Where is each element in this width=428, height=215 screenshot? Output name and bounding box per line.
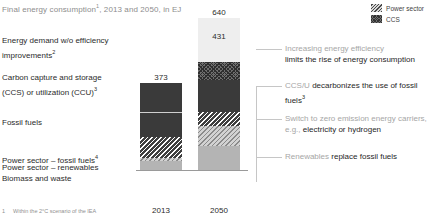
connector-line-ccs (256, 86, 282, 87)
x-axis-line (136, 170, 248, 171)
annotation-renewables-strong: replace fossil fuels (331, 152, 397, 161)
bar-2050-total-label: 640 (198, 8, 240, 17)
segment-2050-efficiency-ghost: 431 (198, 18, 240, 62)
category-label-energy-demand-line1: Energy demand w/o efficiency (2, 36, 109, 45)
category-label-ccs-line1: Carbon capture and storage (2, 73, 102, 82)
annotation-zero-emission: Switch to zero emission energy carriers,… (285, 114, 428, 135)
connector-line-efficiency (256, 49, 282, 50)
category-label-energy-demand-line2: improvements (2, 50, 52, 59)
energy-consumption-chart: Final energy consumption1, 2013 and 2050… (0, 0, 428, 215)
connector-line-zero-emission (256, 119, 282, 120)
category-label-ccs-line2: (CCS) or utilization (CCU) (2, 87, 94, 96)
plot-area: 373 640 431 (136, 12, 248, 184)
category-label-fossil-fuels: Fossil fuels (2, 118, 42, 129)
segment-2050-power-fossil (198, 112, 240, 126)
annotation-efficiency: Increasing energy efficiency limits the … (285, 44, 428, 65)
connector-vertical-rule (256, 86, 257, 182)
x-tick-2013: 2013 (140, 206, 182, 215)
legend-swatch-power-sector-icon (371, 4, 382, 12)
bar-2050-actual-label: 431 (198, 32, 240, 41)
category-label-biomass: Biomass and waste (2, 174, 71, 185)
annotation-efficiency-strong: limits the rise of energy consumption (285, 55, 415, 64)
x-tick-2050: 2050 (198, 206, 240, 215)
chart-title-main: Final energy consumption (2, 5, 96, 14)
connector-line-renewables (256, 157, 282, 158)
category-label-power-fossil-sup: 4 (95, 154, 98, 160)
legend-swatch-ccs-icon (371, 15, 382, 23)
bar-2050: 640 431 (198, 18, 240, 170)
legend-label-ccs: CCS (386, 16, 400, 23)
category-label-power-renewables-text: Power sector – renewables (2, 163, 99, 172)
bar-2013-total-label: 373 (140, 73, 182, 82)
footnote-text: Within the 2°C scenario of the IEA (13, 208, 96, 214)
annotation-renewables: Renewables replace fossil fuels (285, 152, 428, 163)
category-label-energy-demand-sup: 2 (52, 49, 55, 55)
segment-2013-power-fossil (140, 137, 182, 158)
segment-2050-biomass (198, 146, 240, 170)
segment-2050-fossil (198, 80, 240, 112)
category-label-power-renewables: Power sector – renewables (2, 163, 99, 174)
footnote-number: 1 (2, 208, 7, 214)
segment-2050-ccs (198, 62, 240, 80)
annotation-efficiency-muted: Increasing energy efficiency (285, 44, 384, 53)
annotation-ccs-muted: CCS/U (285, 81, 310, 90)
segment-2013-fossil-lower (140, 113, 182, 137)
category-label-fossil-fuels-text: Fossil fuels (2, 118, 42, 127)
segment-2013-fossil-upper (140, 83, 182, 113)
category-label-ccs: Carbon capture and storage (CCS) or util… (2, 73, 102, 98)
bar-2013: 373 (140, 83, 182, 170)
segment-2050-power-renewables (198, 126, 240, 146)
annotation-zero-emission-strong: electricity or hydrogen (303, 125, 381, 134)
legend-item-power-sector: Power sector (371, 4, 424, 12)
category-label-ccs-sup: 3 (94, 86, 97, 92)
annotation-renewables-muted: Renewables (285, 152, 329, 161)
category-label-energy-demand: Energy demand w/o efficiency improvement… (2, 36, 109, 61)
category-label-biomass-text: Biomass and waste (2, 174, 71, 183)
legend-item-ccs: CCS (371, 15, 424, 23)
annotation-ccs: CCS/U decarbonizes the use of fossil fue… (285, 81, 428, 106)
chart-legend: Power sector CCS (371, 4, 424, 23)
footnote: 1 Within the 2°C scenario of the IEA (2, 208, 96, 214)
legend-label-power-sector: Power sector (386, 5, 424, 12)
annotation-ccs-sup: 3 (302, 94, 305, 100)
segment-2013-biomass (140, 161, 182, 170)
